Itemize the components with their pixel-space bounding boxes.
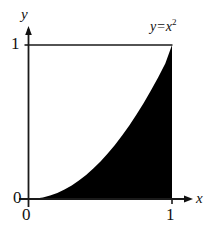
x-tick-label-zero: 0 [22,206,31,223]
y-tick-label-one: 1 [11,35,20,52]
canvas-background [0,0,215,240]
plot-svg [0,0,215,240]
y-axis-label: y [21,7,28,22]
curve-equation-base: y=x [150,19,172,34]
curve-equation-exponent: 2 [172,17,177,27]
x-axis-label: x [196,191,203,206]
curve-equation-label: y=x2 [150,20,176,34]
x-tick-label-one: 1 [166,206,175,223]
y-tick-label-zero: 0 [13,189,22,206]
figure-canvas: y x 1 0 0 1 y=x2 [0,0,215,240]
